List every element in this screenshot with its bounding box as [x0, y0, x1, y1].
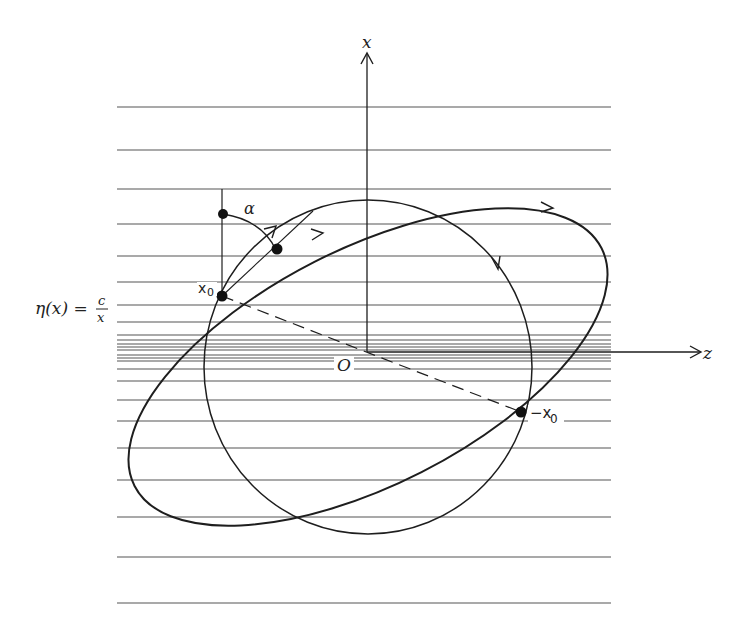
x-axis-label: x — [362, 32, 372, 52]
angle-alpha-arc — [223, 214, 276, 250]
z-axis-label: z — [702, 343, 713, 363]
formula-lhs: η(x) = — [35, 298, 88, 318]
arrowhead-ellipse-start — [311, 229, 323, 240]
origin-label-group: O — [334, 355, 354, 375]
layer-lines — [117, 107, 611, 603]
point-x0 — [217, 291, 228, 302]
neg-x0-label-sub: 0 — [550, 412, 558, 426]
alpha-label: α — [244, 199, 255, 218]
point-neg-x0 — [516, 407, 527, 418]
x0-label: x 0 — [197, 280, 217, 299]
elliptical-ray-path — [81, 143, 655, 591]
refractive-index-formula: η(x) = c x — [35, 293, 108, 325]
dashed-diameter — [222, 296, 521, 412]
x0-label-sub: 0 — [207, 286, 214, 299]
formula-denominator: x — [97, 310, 105, 325]
circular-ray-path — [204, 200, 532, 534]
formula-numerator: c — [98, 293, 106, 308]
origin-label: O — [337, 355, 351, 375]
optics-diagram: x z O α x 0 −x 0 η(x) = c x — [0, 0, 743, 634]
neg-x0-label: −x 0 — [528, 404, 564, 426]
point-tangent-marker — [272, 244, 283, 255]
point-vertical-marker — [218, 209, 228, 219]
neg-x0-label-base: −x — [530, 404, 552, 422]
x0-label-base: x — [198, 280, 206, 296]
